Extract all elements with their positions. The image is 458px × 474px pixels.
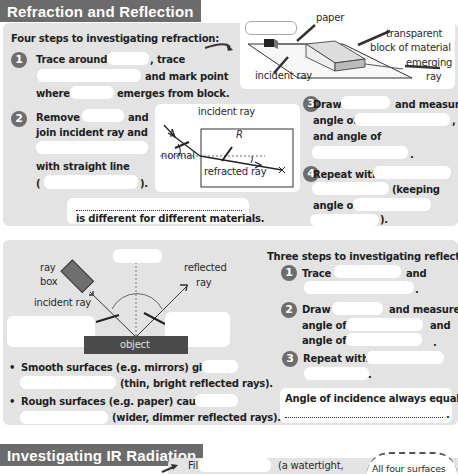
step3-text-angle-of: angle of <box>313 115 357 127</box>
step3-text-period: . <box>410 149 414 161</box>
reflection-step-number-1: 1 <box>281 265 297 281</box>
blank-rstep3-b[interactable] <box>304 367 369 380</box>
rstep2-text-and: and <box>430 320 450 332</box>
step3-text-and-angle-of: and angle of <box>313 131 381 143</box>
rule-period: . <box>446 409 450 421</box>
rstep2-text-period: . <box>433 337 437 349</box>
step-number-1: 1 <box>11 52 27 68</box>
label-emerging: emerging <box>406 57 452 69</box>
label-box: box <box>40 276 57 288</box>
step4-text-angle-of: angle of <box>313 200 357 212</box>
bullet-dot-1: • <box>9 362 15 374</box>
step2-text-remove: Remove <box>36 112 80 124</box>
arrow-icon <box>160 460 180 474</box>
blank-rstep1-a[interactable] <box>334 265 401 278</box>
step2-text-and: and <box>128 112 148 124</box>
bullet-rough-paren: (wider, dimmer reflected rays). <box>112 412 281 424</box>
rstep2-text-angle-of-1: angle of <box>302 320 346 332</box>
blank-step1-a[interactable] <box>107 52 149 65</box>
blank-reflection-left[interactable] <box>7 316 95 347</box>
reflection-step-number-2: 2 <box>281 302 297 318</box>
rstep1-text-trace: Trace <box>302 268 331 280</box>
label-incident-ray-reflection: incident ray <box>34 297 91 309</box>
rstep2-text-draw: Draw <box>302 304 330 316</box>
blank-step3-b[interactable] <box>354 113 450 126</box>
bullet-rough-text: Rough surfaces (e.g. paper) cause <box>21 396 208 408</box>
blank-step2-a[interactable] <box>82 109 124 122</box>
blank-step2-b[interactable] <box>36 141 148 154</box>
step1-text-mark-point: and mark point <box>145 71 228 83</box>
blank-step3-c[interactable] <box>312 146 408 159</box>
rule-blank-line[interactable] <box>285 417 443 418</box>
blank-reflection-normal[interactable] <box>113 249 162 263</box>
blank-step4-c[interactable] <box>353 198 431 211</box>
rstep2-text-angle-of-2: angle of <box>302 335 346 347</box>
blank-step4-a[interactable] <box>373 166 451 179</box>
step1-text-trace: , trace <box>150 54 185 66</box>
blank-rstep2-c[interactable] <box>346 333 422 346</box>
step3-text-comma: , <box>452 115 456 127</box>
step2-text-join: join incident ray and <box>36 127 148 139</box>
blank-rough-b[interactable] <box>20 411 108 424</box>
rstep2-text-and-measure: and measure <box>389 304 458 316</box>
label-reflected: reflected <box>184 262 227 274</box>
label-paper: paper <box>316 12 344 24</box>
blank-rstep2-a[interactable] <box>332 302 383 315</box>
step3-text-and-measure: and measure <box>395 99 458 111</box>
label-emerging-ray: ray <box>426 71 442 83</box>
label-angle-r: R <box>236 129 243 141</box>
blank-rstep2-b[interactable] <box>346 318 423 331</box>
note-blank-line[interactable] <box>76 210 242 211</box>
rstep1-text-period: . <box>415 284 419 296</box>
step2-text-open-paren: ( <box>36 178 40 190</box>
step1-text-where: where <box>36 88 70 100</box>
blank-step4-b[interactable] <box>312 182 389 195</box>
section-title-refraction: Refraction and Reflection <box>0 0 201 22</box>
step2-text-straight-line: with straight line <box>36 161 130 173</box>
blank-step2-c[interactable] <box>44 175 138 189</box>
blank-ir-fill[interactable] <box>198 458 271 472</box>
bullet-dot-2: • <box>9 396 15 408</box>
label-incident-ray-top: incident ray <box>255 70 312 82</box>
blank-smooth-a[interactable] <box>202 360 238 373</box>
blank-rough-a[interactable] <box>195 394 238 407</box>
label-reflected-ray: ray <box>196 277 212 289</box>
label-block-of-material: block of material <box>370 42 451 54</box>
blank-smooth-b[interactable] <box>20 376 116 389</box>
step4-text-close-paren: ). <box>380 214 388 226</box>
step4-text-repeat-with: Repeat with <box>313 169 379 181</box>
step1-text-trace-around: Trace around <box>36 54 107 66</box>
label-normal: normal <box>161 150 195 162</box>
label-transparent: transparent <box>386 28 442 40</box>
blank-step3-a[interactable] <box>341 96 390 109</box>
bullet-smooth-paren: (thin, bright reflected rays). <box>120 378 273 390</box>
label-ray: ray <box>40 262 56 274</box>
step-number-2: 2 <box>11 111 27 127</box>
rstep3-text-repeat-with: Repeat with <box>303 353 369 365</box>
blank-rstep1-b[interactable] <box>304 281 414 294</box>
blank-rstep3-a[interactable] <box>366 351 444 364</box>
label-angle-i: I <box>170 128 173 140</box>
refraction-intro: Four steps to investigating refraction: <box>11 33 219 45</box>
reflection-step-number-3: 3 <box>282 351 298 367</box>
label-incident-ray: incident ray <box>198 106 255 118</box>
blank-step1-c[interactable] <box>70 86 114 99</box>
note-text: is different for different materials. <box>76 213 264 225</box>
callout-text: All four surfaces <box>372 463 446 474</box>
label-object: object <box>120 339 150 351</box>
step2-text-close-paren: ). <box>140 178 148 190</box>
blank-step4-d[interactable] <box>310 214 379 226</box>
rstep3-text-period: . <box>368 369 372 381</box>
step3-text-draw: Draw <box>313 99 341 111</box>
ir-paren-text: (a watertight, <box>278 460 343 472</box>
reflection-intro: Three steps to investigating reflection: <box>267 251 458 263</box>
rstep1-text-and: and <box>406 268 426 280</box>
step1-text-emerges: emerges from block. <box>117 88 229 100</box>
bullet-smooth-text: Smooth surfaces (e.g. mirrors) give <box>21 362 215 374</box>
blank-step1-b[interactable] <box>37 69 141 82</box>
step4-text-keeping: (keeping <box>392 184 440 196</box>
rule-text: Angle of incidence always equals <box>285 393 458 405</box>
label-refracted-ray: refracted ray <box>204 166 266 178</box>
